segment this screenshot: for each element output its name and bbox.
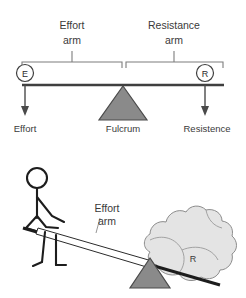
rock-label: R — [190, 254, 197, 264]
illustration-effort-arm-label-line2: arm — [98, 215, 116, 227]
stick-figure-head — [27, 168, 47, 188]
lever-diagram-figure: Effort arm Resistance arm E R Ef — [0, 0, 246, 298]
stick-figure-leg-left — [26, 216, 37, 231]
illustration-svg: R Effort arm — [0, 0, 246, 298]
effort-arm-plank — [36, 228, 152, 268]
stick-figure-arm — [37, 197, 64, 222]
stick-figure-person — [26, 168, 64, 231]
illustration-effort-arm-label-line1: Effort — [95, 202, 120, 214]
